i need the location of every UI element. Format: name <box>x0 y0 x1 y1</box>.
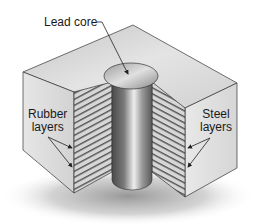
lead-core-cylinder <box>112 80 152 190</box>
rubber-label-line2: layers <box>28 121 67 134</box>
steel-layers-label: Steel layers <box>200 108 232 134</box>
steel-label-line2: layers <box>200 121 232 134</box>
lead-core-cap <box>104 63 158 89</box>
rubber-layers-label: Rubber layers <box>28 108 67 134</box>
lead-core-label: Lead core <box>44 16 97 29</box>
